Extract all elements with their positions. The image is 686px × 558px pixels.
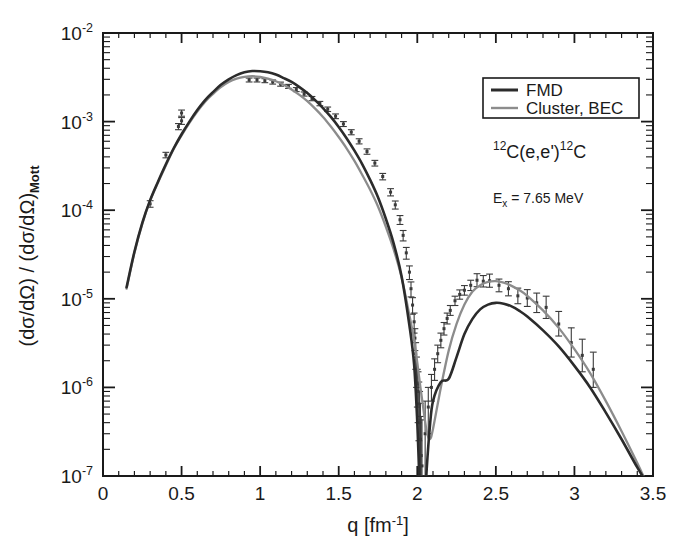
data-error-bar bbox=[452, 296, 459, 305]
data-error-bar bbox=[364, 149, 371, 154]
y-tick-label: 10-4 bbox=[61, 198, 93, 221]
series-line-cluster-bec bbox=[127, 76, 653, 499]
reaction-sup-1: 12 bbox=[493, 139, 507, 153]
svg-text:(dσ/dΩ) / (dσ/dΩ)Mott: (dσ/dΩ) / (dσ/dΩ)Mott bbox=[16, 165, 42, 347]
excitation-energy-label: Ex = 7.65 MeV bbox=[493, 190, 584, 209]
svg-text:Ex = 7.65 MeV: Ex = 7.65 MeV bbox=[493, 190, 584, 209]
data-error-bar bbox=[387, 189, 394, 196]
x-axis-tick-labels: 00.511.522.533.5 bbox=[98, 483, 667, 504]
data-error-bar bbox=[409, 298, 416, 315]
ex-value: = 7.65 MeV bbox=[507, 190, 584, 206]
legend: FMD Cluster, BEC bbox=[483, 78, 639, 118]
figure-container: 00.511.522.533.5 10-210-310-410-510-610-… bbox=[0, 0, 686, 558]
data-error-bar bbox=[371, 160, 378, 166]
data-error-bar bbox=[447, 306, 454, 316]
legend-label-cluster-bec: Cluster, BEC bbox=[526, 99, 623, 118]
data-error-bar bbox=[400, 231, 407, 241]
reaction-sup-2: 12 bbox=[560, 139, 574, 153]
y-tick-label: 10-2 bbox=[61, 21, 93, 44]
x-tick-label: 1.5 bbox=[326, 483, 352, 504]
data-error-bar bbox=[467, 280, 474, 290]
data-error-bar bbox=[406, 266, 413, 280]
data-error-bar bbox=[392, 201, 399, 209]
y-tick-label: 10-5 bbox=[61, 287, 93, 310]
x-tick-label: 1 bbox=[255, 483, 266, 504]
y-axis-title-sub: Mott bbox=[27, 165, 42, 193]
reaction-label: 12C(e,e')12C bbox=[493, 139, 586, 162]
data-error-bar bbox=[356, 139, 363, 144]
y-tick-label: 10-3 bbox=[61, 110, 93, 133]
x-axis-title-close: ] bbox=[403, 514, 409, 536]
data-error-bar bbox=[403, 247, 410, 259]
data-error-bar bbox=[246, 78, 253, 82]
x-axis-title-sup: -1 bbox=[392, 513, 404, 528]
reaction-text-1: C(e,e') bbox=[506, 142, 559, 162]
x-tick-label: 0.5 bbox=[168, 483, 194, 504]
data-error-bar bbox=[178, 110, 185, 116]
data-error-bar bbox=[431, 359, 438, 381]
ex-symbol: E bbox=[493, 190, 502, 206]
y-tick-label: 10-6 bbox=[61, 375, 93, 398]
x-axis-title: q [fm-1] bbox=[347, 513, 409, 536]
x-tick-label: 3.5 bbox=[640, 483, 666, 504]
data-error-bar bbox=[397, 216, 404, 225]
y-axis-title-main: (dσ/dΩ) / (dσ/dΩ) bbox=[16, 193, 38, 347]
reaction-text-2: C bbox=[573, 142, 586, 162]
svg-text:12C(e,e')12C: 12C(e,e')12C bbox=[493, 139, 586, 162]
x-tick-label: 2 bbox=[412, 483, 423, 504]
series-line-fmd bbox=[127, 71, 653, 524]
x-tick-label: 2.5 bbox=[483, 483, 509, 504]
y-tick-label: 10-7 bbox=[61, 464, 93, 487]
plot-svg: 00.511.522.533.5 10-210-310-410-510-610-… bbox=[0, 0, 686, 558]
data-error-bar bbox=[408, 282, 415, 297]
y-axis-tick-labels: 10-210-310-410-510-610-7 bbox=[61, 21, 93, 487]
x-tick-label: 3 bbox=[569, 483, 580, 504]
data-error-bar bbox=[456, 290, 463, 299]
x-axis-title-main: q [fm bbox=[347, 514, 391, 536]
y-axis-title: (dσ/dΩ) / (dσ/dΩ)Mott bbox=[16, 165, 42, 347]
x-tick-label: 0 bbox=[98, 483, 109, 504]
data-error-bar bbox=[254, 78, 261, 82]
data-error-bar bbox=[379, 173, 386, 179]
legend-label-fmd: FMD bbox=[526, 81, 563, 100]
data-error-bar bbox=[348, 130, 355, 135]
svg-text:q [fm-1]: q [fm-1] bbox=[347, 513, 409, 536]
data-error-bar bbox=[340, 122, 347, 127]
